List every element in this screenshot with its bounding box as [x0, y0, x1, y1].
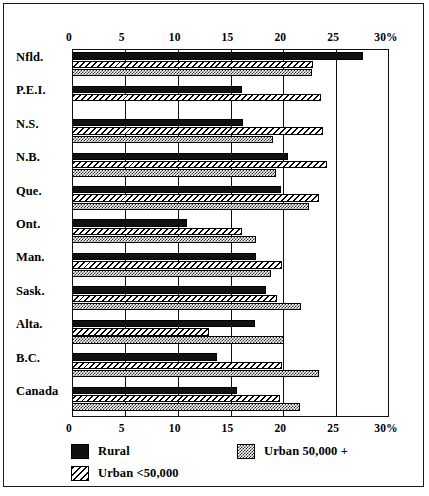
bar-bc-urban-50-000 — [72, 370, 319, 377]
legend-label-urban-small: Urban <50,000 — [98, 466, 179, 481]
x-tick-label-15: 15 — [222, 31, 234, 43]
bar-ont-urban-50-000 — [72, 236, 256, 243]
bar-man-urban-50-000 — [72, 270, 271, 277]
legend-label-urban-large: Urban 50,000 + — [264, 444, 348, 459]
bar-man-urban-50-000 — [72, 261, 282, 268]
bar-nfld-urban-50-000 — [72, 69, 312, 76]
bar-nfld-urban-50-000 — [72, 61, 313, 68]
x-tick-label-15: 15 — [222, 422, 234, 434]
legend: Rural Urban 50,000 + Urban <50,000 — [7, 440, 428, 488]
category-label-bc: B.C. — [16, 351, 70, 366]
legend-item-rural: Rural — [71, 444, 130, 459]
gridline-25 — [336, 49, 337, 417]
bar-canada-rural — [72, 387, 237, 394]
bar-canada-urban-50-000 — [72, 403, 300, 410]
category-label-man: Man. — [16, 250, 70, 265]
bar-sask-rural — [72, 286, 266, 293]
bar-alta-urban-50-000 — [72, 328, 209, 335]
category-label-canada: Canada — [16, 384, 70, 399]
bar-que-urban-50-000 — [72, 194, 319, 201]
bar-pei-rural — [72, 86, 242, 93]
bar-ns-urban-50-000 — [72, 136, 273, 143]
x-tick-label-0: 0 — [66, 422, 72, 434]
x-tick-label-30pct: 30% — [374, 422, 398, 434]
bar-ns-urban-50-000 — [72, 127, 323, 134]
legend-label-rural: Rural — [98, 444, 130, 459]
bar-alta-urban-50-000 — [72, 336, 284, 343]
legend-item-urban-small: Urban <50,000 — [71, 466, 179, 481]
figure-frame: Nfld.P.E.I.N.S.N.B.Que.Ont.Man.Sask.Alta… — [3, 3, 424, 487]
x-tick-label-5: 5 — [119, 31, 125, 43]
category-label-sask: Sask. — [16, 284, 70, 299]
bar-nb-urban-50-000 — [72, 161, 327, 168]
bar-bc-urban-50-000 — [72, 362, 282, 369]
caption-sliver — [6, 489, 306, 495]
x-tick-label-10: 10 — [169, 31, 181, 43]
bar-ont-rural — [72, 219, 187, 226]
legend-swatch-rural-icon — [71, 444, 89, 459]
bar-nb-rural — [72, 153, 288, 160]
category-label-nb: N.B. — [16, 150, 70, 165]
bar-bc-rural — [72, 353, 217, 360]
x-tick-label-20: 20 — [274, 422, 286, 434]
x-tick-label-25: 25 — [327, 31, 339, 43]
bar-sask-urban-50-000 — [72, 295, 277, 302]
legend-item-urban-large: Urban 50,000 + — [237, 444, 348, 459]
bar-nb-urban-50-000 — [72, 169, 276, 176]
bar-man-rural — [72, 253, 256, 260]
category-label-nfld: Nfld. — [16, 50, 70, 65]
gridline-20 — [283, 49, 284, 417]
category-label-pei: P.E.I. — [16, 83, 70, 98]
category-label-ns: N.S. — [16, 117, 70, 132]
x-tick-label-30pct: 30% — [374, 31, 398, 43]
legend-swatch-urban-small-icon — [71, 466, 89, 481]
x-tick-label-0: 0 — [66, 31, 72, 43]
bar-pei-urban-50-000 — [72, 94, 321, 101]
bar-sask-urban-50-000 — [72, 303, 301, 310]
bar-ns-rural — [72, 119, 243, 126]
category-label-ont: Ont. — [16, 217, 70, 232]
bar-ont-urban-50-000 — [72, 228, 242, 235]
bar-que-urban-50-000 — [72, 203, 309, 210]
category-label-alta: Alta. — [16, 317, 70, 332]
x-tick-label-25: 25 — [327, 422, 339, 434]
bar-alta-rural — [72, 320, 255, 327]
plot-area — [72, 49, 389, 417]
x-tick-label-20: 20 — [274, 31, 286, 43]
bar-canada-urban-50-000 — [72, 395, 280, 402]
category-label-que: Que. — [16, 184, 70, 199]
x-tick-label-5: 5 — [119, 422, 125, 434]
bar-nfld-rural — [72, 52, 363, 59]
legend-swatch-urban-large-icon — [237, 444, 255, 459]
bar-que-rural — [72, 186, 281, 193]
x-tick-label-10: 10 — [169, 422, 181, 434]
